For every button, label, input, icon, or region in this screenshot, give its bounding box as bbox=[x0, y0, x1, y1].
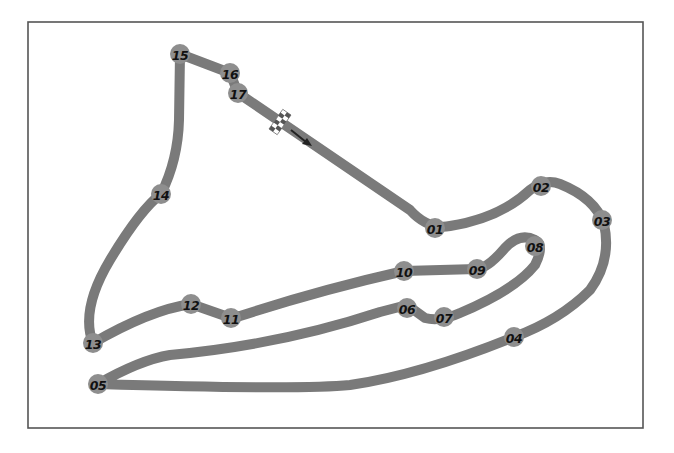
corner-label: 03 bbox=[594, 214, 610, 229]
corner-label: 15 bbox=[172, 48, 189, 63]
corner-label: 10 bbox=[396, 265, 413, 280]
corner-label: 17 bbox=[230, 87, 247, 102]
corner-label: 12 bbox=[183, 298, 199, 313]
circuit-map: 0102030405060708091011121314151617 bbox=[0, 0, 674, 453]
corner-marker-07: 07 bbox=[434, 307, 454, 327]
corner-marker-06: 06 bbox=[397, 298, 417, 318]
corner-marker-02: 02 bbox=[531, 176, 551, 196]
corner-marker-04: 04 bbox=[504, 327, 524, 347]
corner-label: 09 bbox=[469, 263, 486, 278]
corner-label: 13 bbox=[85, 337, 101, 352]
corner-marker-11: 11 bbox=[221, 308, 241, 328]
corner-label: 11 bbox=[223, 312, 239, 327]
corner-label: 05 bbox=[90, 378, 107, 393]
corner-label: 07 bbox=[436, 311, 453, 326]
corner-label: 16 bbox=[222, 67, 239, 82]
corner-marker-15: 15 bbox=[170, 44, 190, 64]
corner-marker-13: 13 bbox=[83, 333, 103, 353]
corner-label: 14 bbox=[153, 188, 169, 203]
corner-label: 04 bbox=[506, 331, 522, 346]
corner-label: 01 bbox=[427, 222, 443, 237]
corner-marker-17: 17 bbox=[228, 83, 248, 103]
corner-marker-05: 05 bbox=[88, 374, 108, 394]
corner-marker-14: 14 bbox=[151, 184, 171, 204]
corner-marker-08: 08 bbox=[525, 236, 545, 256]
corner-marker-10: 10 bbox=[394, 261, 414, 281]
corner-marker-01: 01 bbox=[425, 218, 445, 238]
corner-marker-09: 09 bbox=[467, 259, 487, 279]
corner-label: 08 bbox=[527, 240, 544, 255]
corner-marker-12: 12 bbox=[181, 294, 201, 314]
corner-label: 06 bbox=[399, 302, 416, 317]
corner-marker-16: 16 bbox=[220, 63, 240, 83]
corner-label: 02 bbox=[533, 180, 549, 195]
corner-marker-03: 03 bbox=[592, 210, 612, 230]
